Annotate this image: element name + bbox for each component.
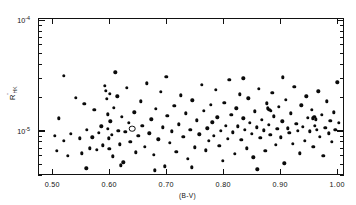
x-tick-label: 0.90 — [273, 180, 288, 189]
y-tick-left-minor — [38, 155, 42, 156]
y-tick-right-minor — [340, 164, 344, 165]
y-tick-left-minor — [38, 164, 42, 165]
y-tick-right-minor — [340, 25, 344, 26]
x-tick-bottom-major — [166, 169, 167, 175]
x-tick-top-major — [280, 18, 281, 24]
y-tick-left-minor — [38, 53, 42, 54]
x-tick-top-major — [337, 18, 338, 24]
y-tick-right-minor — [340, 44, 344, 45]
y-tick-label: 10-5 — [2, 126, 30, 136]
y-tick-left-minor — [38, 25, 42, 26]
y-tick-right-minor — [340, 141, 344, 142]
x-tick-label: 0.80 — [216, 180, 231, 189]
x-axis-title: (B-V) — [179, 192, 196, 199]
y-tick-right-major — [337, 20, 344, 21]
y-tick-left-minor — [38, 97, 42, 98]
y-tick-right-major — [337, 130, 344, 131]
x-tick-bottom-major — [337, 169, 338, 175]
x-tick-top-major — [166, 18, 167, 24]
y-tick-right-minor — [340, 31, 344, 32]
y-tick-right-minor — [340, 155, 344, 156]
y-tick-left-minor — [38, 141, 42, 142]
x-tick-label: 0.60 — [102, 180, 117, 189]
x-tick-label: 0.50 — [45, 180, 60, 189]
x-tick-bottom-major — [52, 169, 53, 175]
figure-scatter-plot: 0.500.600.700.800.901.00 10-410-5 (B-V) … — [0, 0, 356, 205]
y-tick-left-minor — [38, 44, 42, 45]
y-tick-left-minor — [38, 78, 42, 79]
x-tick-bottom-major — [109, 169, 110, 175]
y-axis-title: R'HK — [6, 86, 18, 99]
y-tick-right-minor — [340, 136, 344, 137]
y-tick-right-minor — [340, 78, 344, 79]
y-tick-right-minor — [340, 175, 344, 176]
y-tick-left-minor — [38, 37, 42, 38]
y-tick-left-minor — [38, 64, 42, 65]
y-tick-right-minor — [340, 97, 344, 98]
y-tick-left-minor — [38, 136, 42, 137]
x-tick-label: 0.70 — [159, 180, 174, 189]
y-tick-left-minor — [38, 175, 42, 176]
y-tick-left-minor — [38, 148, 42, 149]
y-tick-right-minor — [340, 37, 344, 38]
y-tick-right-minor — [340, 148, 344, 149]
x-tick-top-major — [109, 18, 110, 24]
x-tick-label: 1.00 — [330, 180, 345, 189]
x-tick-top-major — [52, 18, 53, 24]
y-tick-right-minor — [340, 53, 344, 54]
x-tick-top-major — [223, 18, 224, 24]
x-tick-bottom-major — [280, 169, 281, 175]
data-point-open — [129, 125, 136, 132]
x-tick-bottom-major — [223, 169, 224, 175]
y-tick-left-major — [38, 20, 45, 21]
y-tick-left-minor — [38, 31, 42, 32]
y-tick-left-major — [38, 130, 45, 131]
y-tick-right-minor — [340, 64, 344, 65]
y-tick-label: 10-4 — [2, 15, 30, 25]
